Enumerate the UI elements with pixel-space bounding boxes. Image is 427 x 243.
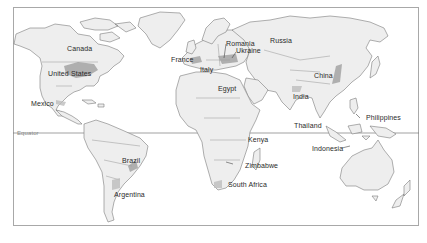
landmass-tasmania xyxy=(372,196,378,201)
landmass-central-america xyxy=(56,110,82,124)
label-south-africa: South Africa xyxy=(228,181,267,188)
label-indonesia: Indonesia xyxy=(312,145,343,152)
label-kenya: Kenya xyxy=(248,136,268,143)
label-zimbabwe: Zimbabwe xyxy=(245,162,278,169)
label-italy: Italy xyxy=(200,66,213,73)
label-philippines: Philippines xyxy=(366,114,401,121)
landmass-philippines xyxy=(350,98,358,114)
label-united-states: United States xyxy=(48,70,91,77)
label-canada: Canada xyxy=(67,45,92,52)
landmass-caribbean xyxy=(82,100,104,107)
highlight-argentina xyxy=(112,178,120,190)
landmass-japan xyxy=(370,56,380,78)
label-ukraine: Ukraine xyxy=(236,47,261,54)
label-thailand: Thailand xyxy=(294,122,322,129)
label-india: India xyxy=(293,93,309,100)
world-map xyxy=(0,0,427,243)
label-equator: Equator xyxy=(17,130,39,136)
landmass-new-zealand xyxy=(392,180,410,208)
label-france: France xyxy=(171,56,193,63)
label-china: China xyxy=(314,72,333,79)
leader-philippines xyxy=(356,114,360,118)
label-brazil: Brazil xyxy=(122,157,140,164)
label-egypt: Egypt xyxy=(218,85,236,92)
label-romania: Romania xyxy=(226,40,255,47)
label-argentina: Argentina xyxy=(114,191,145,198)
landmass-south-america xyxy=(84,120,148,222)
landmass-australia xyxy=(340,140,394,190)
label-russia: Russia xyxy=(270,37,292,44)
label-mexico: Mexico xyxy=(31,100,54,107)
landmass-greenland xyxy=(138,12,185,48)
